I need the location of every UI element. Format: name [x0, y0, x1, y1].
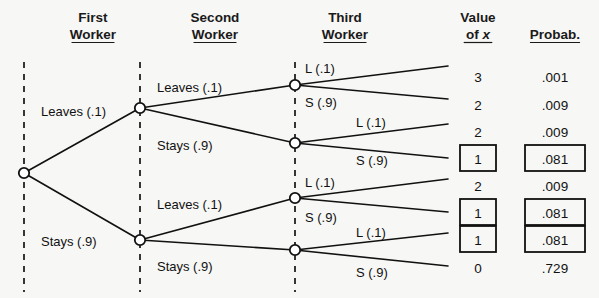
- outcome-1-probability: .001: [542, 70, 568, 85]
- outcome-5-value: 2: [474, 179, 482, 194]
- header-first-worker-line1: First: [78, 10, 108, 25]
- outcome-4-value: 1: [474, 152, 482, 167]
- tree-node-root: [19, 168, 29, 178]
- header-value-of-x-line1: Value: [460, 10, 496, 25]
- level-guide-lines: [24, 62, 295, 292]
- outcome-3-value: 2: [474, 125, 482, 140]
- outcome-4-probability: .081: [542, 152, 568, 167]
- header-third-worker-line2: Worker: [322, 27, 369, 42]
- label-third-l-1: L (.1): [305, 61, 335, 76]
- header-probability-line2: Probab.: [530, 27, 580, 42]
- header-value-of-x-line2: of x: [466, 27, 491, 42]
- edge-SS-o8: [295, 250, 448, 266]
- header-first-worker-line2: Worker: [70, 27, 117, 42]
- tree-node-n-SS: [290, 245, 300, 255]
- tree-node-n-SL: [290, 193, 300, 203]
- label-third-s-2: S (.9): [356, 153, 388, 168]
- label-first-stays: Stays (.9): [41, 234, 97, 249]
- header-second-worker-line2: Worker: [192, 27, 239, 42]
- tree-node-n-LS: [290, 138, 300, 148]
- label-third-s-1: S (.9): [305, 95, 337, 110]
- outcome-row: 2.009: [474, 98, 568, 113]
- header-third-worker-line1: Third: [328, 10, 362, 25]
- label-second-leaves-top: Leaves (.1): [157, 80, 222, 95]
- outcome-6-value: 1: [474, 206, 482, 221]
- label-third-l-2: L (.1): [356, 115, 386, 130]
- label-third-l-3: L (.1): [305, 175, 335, 190]
- outcome-7-probability: .081: [542, 233, 568, 248]
- label-second-stays-top: Stays (.9): [157, 138, 213, 153]
- outcome-row: 1.081: [460, 199, 585, 225]
- tree-node-n-LL: [290, 80, 300, 90]
- label-first-leaves: Leaves (.1): [41, 104, 106, 119]
- label-third-s-3: S (.9): [305, 210, 337, 225]
- probability-tree-diagram: Leaves (.1)Stays (.9)Leaves (.1)Stays (.…: [0, 0, 599, 298]
- outcome-row: 2.009: [474, 125, 568, 140]
- label-second-leaves-bot: Leaves (.1): [157, 197, 222, 212]
- outcome-7-value: 1: [474, 233, 482, 248]
- outcome-row: 3.001: [474, 70, 568, 85]
- branch-labels: Leaves (.1)Stays (.9)Leaves (.1)Stays (.…: [41, 61, 388, 280]
- edge-S-SS: [140, 240, 295, 250]
- outcome-2-probability: .009: [542, 98, 568, 113]
- outcome-row: 1.081: [460, 226, 585, 252]
- outcome-8-probability: .729: [542, 261, 568, 276]
- outcome-6-probability: .081: [542, 206, 568, 221]
- edge-root-S: [24, 173, 140, 240]
- outcome-2-value: 2: [474, 98, 482, 113]
- outcome-rows: 3.0012.0092.0091.0812.0091.0811.0810.729: [460, 70, 585, 276]
- column-headers: FirstWorkerSecondWorkerThirdWorkerValueo…: [70, 10, 580, 43]
- outcome-5-probability: .009: [542, 179, 568, 194]
- outcome-8-value: 0: [474, 261, 482, 276]
- header-second-worker-line1: Second: [191, 10, 240, 25]
- outcome-row: 1.081: [460, 145, 585, 171]
- label-third-s-4: S (.9): [356, 265, 388, 280]
- outcome-row: 2.009: [474, 179, 568, 194]
- tree-node-n-L: [135, 103, 145, 113]
- label-second-stays-bot: Stays (.9): [157, 259, 213, 274]
- label-third-l-4: L (.1): [356, 225, 386, 240]
- tree-canvas: Leaves (.1)Stays (.9)Leaves (.1)Stays (.…: [0, 0, 599, 298]
- outcome-3-probability: .009: [542, 125, 568, 140]
- outcome-row: 0.729: [474, 261, 568, 276]
- tree-node-n-S: [135, 235, 145, 245]
- outcome-1-value: 3: [474, 70, 482, 85]
